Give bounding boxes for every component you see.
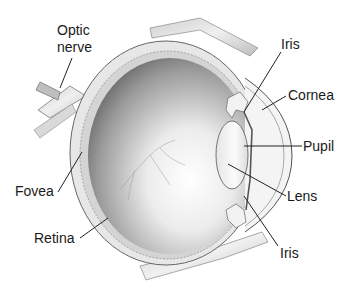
label-optic-nerve-line1: Optic [57, 23, 92, 38]
label-retina: Retina [34, 231, 74, 246]
label-pupil: Pupil [303, 139, 334, 154]
label-iris-top: Iris [281, 37, 300, 52]
label-lens: Lens [287, 189, 317, 204]
label-iris-bottom: Iris [280, 246, 299, 261]
eye-diagram: Optic nerve Iris Cornea Pupil Fovea Lens… [0, 0, 350, 300]
label-cornea: Cornea [288, 88, 334, 103]
label-fovea: Fovea [15, 184, 54, 199]
label-optic-nerve-line2: nerve [57, 40, 92, 55]
label-optic-nerve: Optic nerve [57, 23, 92, 55]
